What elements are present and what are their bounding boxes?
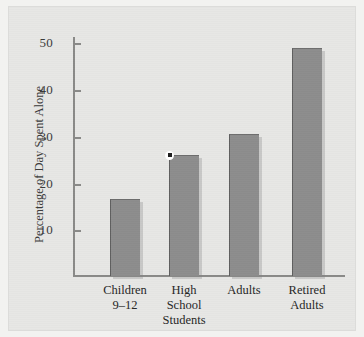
bar-high-school <box>169 155 199 276</box>
y-tick-10 <box>75 230 81 232</box>
y-axis-title: Percentage of Day Spent Alone <box>32 65 47 265</box>
y-tick-40 <box>75 90 81 92</box>
y-tick-30 <box>75 137 81 139</box>
y-tick-50 <box>75 43 81 45</box>
bar-retired-adults <box>292 48 322 276</box>
data-point-marker-icon <box>165 151 174 160</box>
y-tick-20 <box>75 184 81 186</box>
x-category-label-line: Adults <box>263 298 351 313</box>
y-tick-label-50: 50 <box>13 35 53 51</box>
bar-children <box>110 199 140 276</box>
x-category-label-retired-adults: RetiredAdults <box>263 283 351 313</box>
x-category-label-line: Retired <box>263 283 351 298</box>
bar-adults <box>229 134 259 276</box>
x-category-label-line: Students <box>140 313 228 328</box>
y-axis-line <box>73 37 75 277</box>
plot-area: 50 40 30 20 10 Percentage of Day Spent A… <box>9 7 355 330</box>
x-category-label-line: School <box>140 298 228 313</box>
figure-panel: 50 40 30 20 10 Percentage of Day Spent A… <box>8 6 356 331</box>
